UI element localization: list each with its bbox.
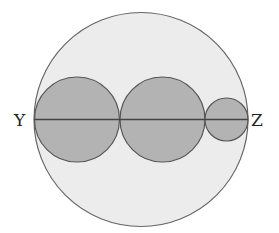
label-z: Z	[251, 110, 263, 130]
geometry-diagram: Y Z	[0, 0, 279, 233]
label-y: Y	[13, 110, 26, 130]
